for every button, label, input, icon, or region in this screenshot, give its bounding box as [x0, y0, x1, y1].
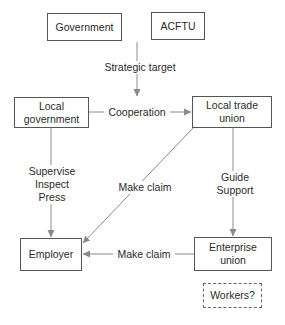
node-workers: Workers? — [203, 283, 262, 308]
edge-label-make-claim-bottom: Make claim — [113, 248, 175, 261]
edge-label-guide-support: Guide Support — [210, 171, 260, 197]
edge-label-strategic-target: Strategic target — [98, 61, 182, 74]
node-employer-label: Employer — [29, 248, 73, 261]
node-acftu: ACFTU — [151, 12, 205, 40]
diagram-canvas: Strategic target Cooperation Supervise I… — [0, 0, 285, 325]
node-workers-label: Workers? — [210, 289, 255, 302]
node-acftu-label: ACFTU — [161, 20, 196, 33]
node-local-trade-union: Local trade union — [192, 96, 272, 128]
node-government: Government — [47, 13, 122, 41]
node-enterprise-union-label: Enterprise union — [209, 241, 257, 267]
node-local-government: Local government — [14, 97, 89, 128]
node-local-trade-union-label: Local trade union — [206, 99, 258, 125]
node-employer: Employer — [20, 238, 82, 271]
edge-label-make-claim-diagonal: Make claim — [114, 181, 176, 194]
edge-label-supervise: Supervise Inspect Press — [21, 165, 83, 204]
edge-layer — [0, 0, 285, 325]
node-enterprise-union: Enterprise union — [194, 237, 272, 271]
node-government-label: Government — [56, 21, 114, 34]
node-local-government-label: Local government — [24, 100, 79, 126]
edge-label-cooperation: Cooperation — [104, 106, 170, 119]
